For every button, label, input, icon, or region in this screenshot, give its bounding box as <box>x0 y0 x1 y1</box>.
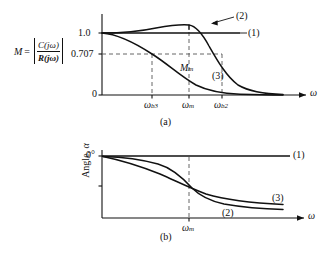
magnitude-definition: M = C(jω) R(jω) <box>14 38 65 64</box>
panel-a-caption: (a) <box>160 117 171 127</box>
panel-a-x-axis-arrow <box>299 92 306 98</box>
panel-a <box>99 14 307 99</box>
panel-b-curve-2 <box>103 157 283 210</box>
panel-a-xtick-label-wb2: ωb2 <box>214 100 228 110</box>
panel-a-curve-1-label: (1) <box>248 28 260 38</box>
abs-bar-left <box>34 38 35 64</box>
m-symbol: M <box>14 46 22 57</box>
fraction-denominator: R(jω) <box>37 52 60 63</box>
panel-b-x-axis-label: ω <box>308 211 315 221</box>
panel-b-curve-1-label: (1) <box>293 150 305 160</box>
omega-symbol: ω <box>182 222 189 233</box>
panel-b-caption: (b) <box>160 232 172 242</box>
panel-b-x-axis-arrow <box>297 215 304 221</box>
equals-sign: = <box>24 46 30 57</box>
panel-a-ytick-label-0: 0 <box>92 89 97 99</box>
panel-b-curve-3 <box>103 157 283 205</box>
panel-a-peak-label: Mm <box>180 63 193 73</box>
omega-subscript: m <box>189 225 194 233</box>
mm-subscript: m <box>188 65 193 73</box>
panel-a-xtick-label-wb3: ωb3 <box>144 100 158 110</box>
omega-subscript: b2 <box>221 102 228 110</box>
panel-b-xtick-label-wm: ωm <box>182 223 194 233</box>
alpha-symbol: α <box>80 143 91 148</box>
panel-b-curve-2-label: (2) <box>222 208 234 218</box>
panel-a-curve-3-label: (3) <box>212 71 224 81</box>
omega-symbol: ω <box>214 99 221 110</box>
omega-symbol: ω <box>182 99 189 110</box>
omega-subscript: b3 <box>151 102 158 110</box>
panel-a-curve-2-label: (2) <box>236 11 248 21</box>
panel-a-x-axis-label: ω <box>310 88 317 98</box>
fraction-numerator: C(jω) <box>37 40 60 52</box>
panel-a-curve-2-leader-arrow <box>211 20 218 25</box>
figure-root: M = C(jω) R(jω) 1.0 0.707 0 ωb3 ωm ωb2 ω… <box>0 0 330 255</box>
abs-bar-right <box>62 38 63 64</box>
transfer-fraction: C(jω) R(jω) <box>37 40 60 63</box>
panel-b <box>99 150 305 222</box>
panel-a-ytick-label-1p0: 1.0 <box>78 28 91 38</box>
omega-subscript: m <box>189 102 194 110</box>
panel-a-ytick-label-0p707: 0.707 <box>71 49 94 59</box>
panel-a-xtick-label-wm: ωm <box>182 100 194 110</box>
panel-b-y-axis-label: Angle, α <box>80 132 91 190</box>
panel-b-ytick-label-0deg: 0° <box>86 150 95 160</box>
omega-symbol: ω <box>144 99 151 110</box>
panel-b-curve-3-label: (3) <box>272 193 284 203</box>
